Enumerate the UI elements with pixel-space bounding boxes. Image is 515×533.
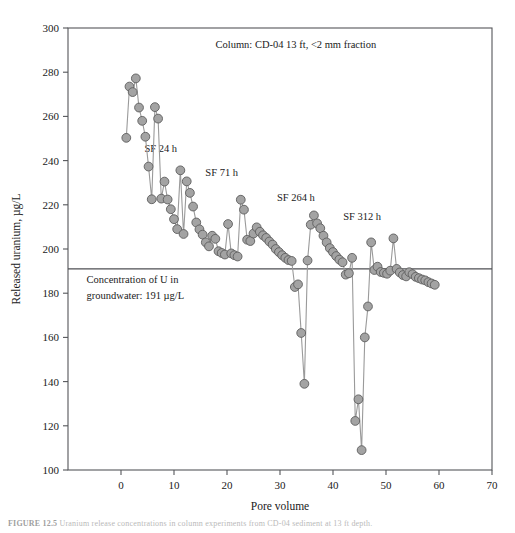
data-point (163, 195, 172, 204)
data-point (310, 211, 319, 220)
y-tick-label: 200 (43, 243, 60, 255)
data-point (144, 162, 153, 171)
data-point (338, 258, 347, 267)
annotation-column-note: Column: CD-04 13 ft, <2 mm fraction (216, 39, 378, 50)
data-point (389, 234, 398, 243)
data-point (348, 253, 357, 262)
data-point (430, 280, 439, 289)
x-axis-title: Pore volume (251, 500, 309, 512)
data-point (345, 269, 354, 278)
data-point (354, 395, 363, 404)
data-point (233, 252, 242, 261)
data-point (367, 238, 376, 247)
x-tick-label: 50 (381, 479, 393, 491)
figure-caption: FIGURE 12.5 Uranium release concentratio… (8, 519, 508, 528)
data-point (303, 256, 312, 265)
x-tick-label: 70 (487, 479, 499, 491)
series-connector-line (126, 78, 434, 450)
y-tick-label: 140 (43, 376, 60, 388)
x-tick-label: 30 (275, 479, 287, 491)
x-tick-label: 40 (328, 479, 340, 491)
data-point (189, 202, 198, 211)
y-tick-label: 260 (43, 110, 60, 122)
data-point (364, 302, 373, 311)
data-point (182, 177, 191, 186)
data-point (357, 446, 366, 455)
data-point (151, 103, 160, 112)
y-tick-label: 160 (43, 331, 60, 343)
data-point (300, 379, 309, 388)
annotation-sf-312h: SF 312 h (343, 211, 382, 222)
data-point (294, 280, 303, 289)
caption-label: FIGURE 12.5 (8, 519, 57, 528)
data-point (240, 205, 249, 214)
x-tick-label: 10 (169, 479, 181, 491)
data-point (360, 333, 369, 342)
data-point (205, 242, 214, 251)
data-point (351, 417, 360, 426)
figure-container: 1001201401601802002202402602803000102030… (0, 0, 515, 533)
annotation-sf-71h: SF 71 h (205, 167, 238, 178)
y-tick-label: 300 (43, 22, 60, 34)
y-tick-label: 280 (43, 66, 60, 78)
reference-line-label-2: groundwater: 191 µg/L (87, 290, 185, 301)
data-point (170, 215, 179, 224)
data-point (176, 166, 185, 175)
annotation-sf-24h: SF 24 h (144, 143, 177, 154)
data-point (141, 132, 150, 141)
y-axis-title: Released uranium, µg/L (10, 193, 23, 304)
data-point (122, 133, 131, 142)
data-point (179, 230, 188, 239)
data-point (138, 116, 147, 125)
y-tick-label: 180 (43, 287, 60, 299)
data-point (287, 257, 296, 266)
y-tick-label: 240 (43, 155, 60, 167)
caption-text: Uranium release concentrations in column… (60, 519, 373, 528)
data-point (224, 220, 233, 229)
data-point (147, 195, 156, 204)
x-tick-label: 0 (118, 479, 124, 491)
data-point (160, 177, 169, 186)
data-point (236, 195, 245, 204)
annotation-sf-264h: SF 264 h (277, 192, 316, 203)
data-point (297, 329, 306, 338)
y-tick-label: 120 (43, 420, 60, 432)
y-tick-label: 100 (43, 464, 60, 476)
data-point (131, 74, 140, 83)
data-point (186, 188, 195, 197)
uranium-release-scatter-chart: 1001201401601802002202402602803000102030… (0, 0, 515, 515)
data-point (211, 234, 220, 243)
y-tick-label: 220 (43, 199, 60, 211)
data-point (135, 103, 144, 112)
data-point (166, 205, 175, 214)
data-point (154, 114, 163, 123)
data-point (128, 88, 137, 97)
x-tick-label: 60 (434, 479, 446, 491)
reference-line-label-1: Concentration of U in (87, 274, 180, 285)
x-tick-label: 20 (222, 479, 234, 491)
